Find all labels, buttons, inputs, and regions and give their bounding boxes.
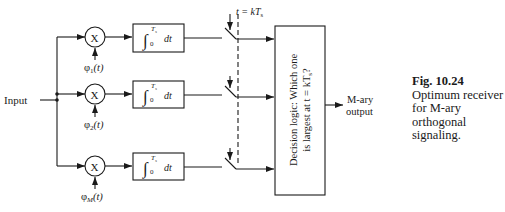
multiplier-symbol: X	[91, 32, 99, 44]
integrator-2-label: ∫ Ts 0 dt	[142, 82, 172, 107]
svg-text:Ts: Ts	[151, 25, 157, 34]
integrator-M-label: ∫ Ts 0 dt	[142, 154, 172, 179]
svg-text:0: 0	[150, 40, 154, 48]
caption-line: Optimum receiver	[412, 89, 505, 103]
output-label-line2: output	[346, 106, 373, 117]
sampler-time-label: t = kTs	[236, 6, 264, 18]
basis-phiM-label: φM(t)	[81, 191, 103, 204]
svg-text:∫: ∫	[142, 31, 149, 51]
integrator-M	[133, 153, 184, 180]
svg-text:∫: ∫	[142, 159, 149, 179]
junction-dot	[55, 92, 59, 96]
integrator-2	[133, 81, 184, 108]
basis-phi2-label: φ2(t)	[84, 119, 104, 132]
svg-text:Decision logic: Which one: Decision logic: Which one	[288, 54, 299, 166]
output-label-line1: M-ary	[347, 94, 374, 105]
integrator-1-label: ∫ Ts 0 dt	[142, 25, 172, 51]
input-label: Input	[4, 94, 27, 106]
multiplier-symbol: X	[91, 161, 99, 173]
svg-text:Ts: Ts	[151, 82, 157, 91]
decision-logic-label: Decision logic: Which one is largest at …	[288, 54, 314, 166]
svg-text:dt: dt	[164, 90, 172, 101]
figure-number: Fig. 10.24	[412, 75, 505, 89]
svg-text:Ts: Ts	[151, 154, 157, 163]
svg-text:∫: ∫	[142, 87, 149, 107]
junction-dot	[55, 98, 59, 102]
integrator-1	[133, 24, 184, 52]
caption-line: for M-ary	[412, 102, 505, 116]
svg-text:dt: dt	[164, 33, 172, 44]
multiplier-symbol: X	[91, 89, 99, 101]
svg-text:is largest at t = kTs?: is largest at t = kTs?	[301, 68, 314, 152]
decision-logic-box	[275, 26, 325, 195]
caption-line: orthogonal	[412, 116, 505, 130]
svg-text:0: 0	[150, 96, 154, 104]
caption-line: signaling.	[412, 129, 505, 143]
basis-phi1-label: φ1(t)	[84, 62, 104, 75]
figure-caption: Fig. 10.24 Optimum receiver for M-ary or…	[412, 75, 505, 143]
svg-text:0: 0	[150, 168, 154, 176]
svg-text:dt: dt	[164, 162, 172, 173]
